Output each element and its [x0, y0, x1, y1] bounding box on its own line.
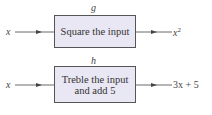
machine-g-name: g — [91, 3, 96, 13]
machine-h-name: h — [91, 56, 96, 66]
machine-g-operation: Square the input — [61, 26, 130, 37]
machine-g-input-label: x — [6, 27, 10, 37]
machine-h-input-label: x — [6, 80, 10, 90]
machine-g-box: Square the input — [54, 15, 136, 48]
machine-h-box: Treble the input and add 5 — [54, 66, 136, 103]
machine-h-output: 3x + 5 — [173, 79, 199, 90]
machine-h-operation-line1: Treble the input — [62, 74, 129, 85]
machine-h-operation-line2: and add 5 — [75, 85, 116, 96]
machine-g-output: x2 — [173, 26, 181, 38]
machine-g-output-exponent: 2 — [177, 26, 181, 34]
